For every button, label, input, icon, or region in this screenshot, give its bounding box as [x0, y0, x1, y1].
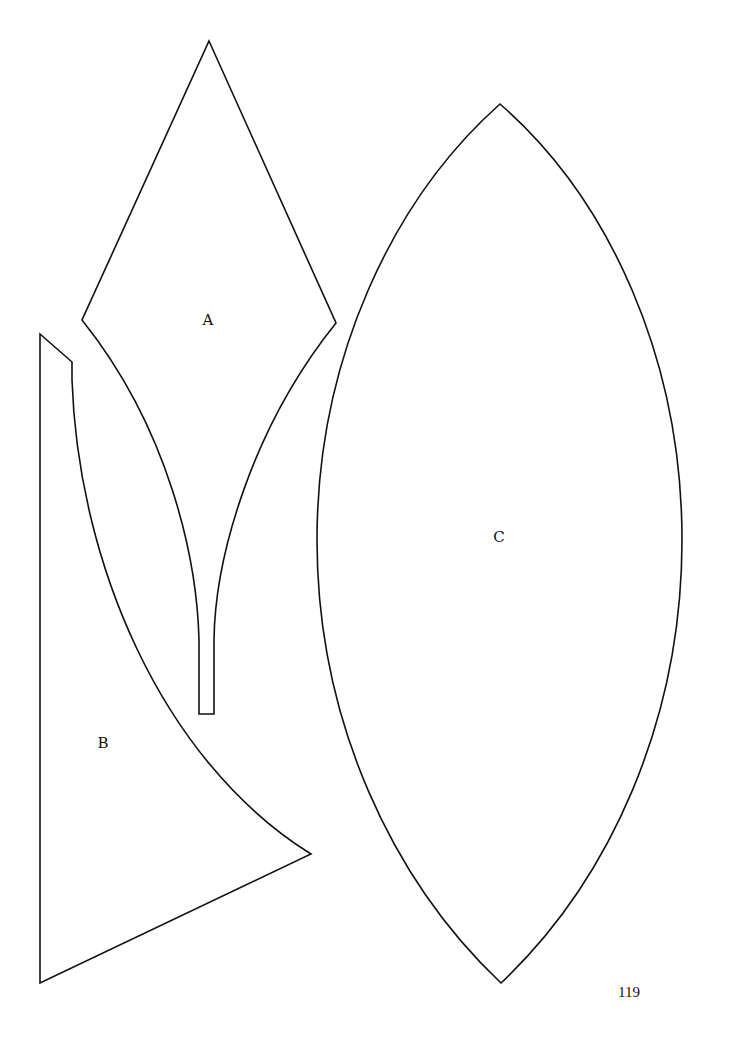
pattern-sheet [0, 0, 731, 1047]
pattern-piece-c-label: C [493, 530, 504, 545]
page-number: 119 [618, 985, 640, 1000]
pattern-piece-b-label: B [97, 736, 108, 751]
pattern-piece-a-label: A [203, 313, 214, 328]
